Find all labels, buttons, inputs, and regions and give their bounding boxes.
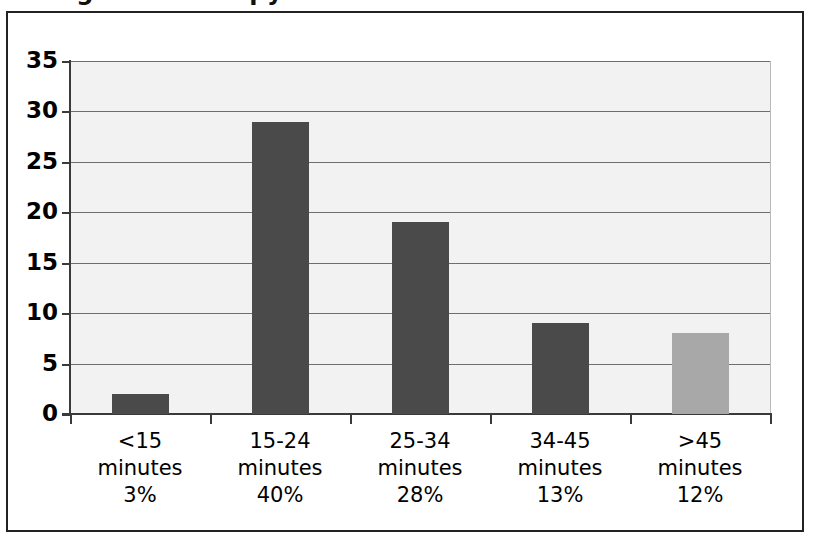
y-axis-tick bbox=[62, 364, 70, 366]
bar[interactable] bbox=[112, 394, 169, 414]
y-axis-tick-label: 30 bbox=[10, 99, 58, 122]
x-axis-tick bbox=[210, 415, 212, 424]
y-axis-tick-label: 35 bbox=[10, 49, 58, 72]
x-axis-category-label: >45minutes12% bbox=[630, 428, 770, 509]
y-axis-tick bbox=[62, 61, 70, 63]
gridline bbox=[70, 162, 770, 163]
x-axis-category-label: 15-24minutes40% bbox=[210, 428, 350, 509]
y-axis-tick bbox=[62, 263, 70, 265]
bar[interactable] bbox=[252, 122, 309, 414]
category-percent: 13% bbox=[490, 482, 630, 509]
x-axis-category-label: 25-34minutes28% bbox=[350, 428, 490, 509]
y-axis-line bbox=[69, 60, 71, 416]
y-axis-tick-label: 15 bbox=[10, 251, 58, 274]
y-axis-tick bbox=[62, 111, 70, 113]
x-axis-tick bbox=[350, 415, 352, 424]
x-axis-tick bbox=[490, 415, 492, 424]
category-percent: 28% bbox=[350, 482, 490, 509]
category-unit: minutes bbox=[350, 455, 490, 482]
y-axis-tick-label: 20 bbox=[10, 200, 58, 223]
gridline bbox=[70, 212, 770, 213]
y-axis-tick-label: 25 bbox=[10, 150, 58, 173]
x-axis-tick bbox=[630, 415, 632, 424]
bar[interactable] bbox=[392, 222, 449, 414]
chart-title-strip: Length of Therapy Sessions bbox=[0, 0, 813, 11]
category-unit: minutes bbox=[210, 455, 350, 482]
category-range: >45 bbox=[630, 428, 770, 455]
chart-figure-frame: 35302520151050 <15minutes3%15-24minutes4… bbox=[6, 11, 804, 532]
y-axis-tick-label: 0 bbox=[10, 402, 58, 425]
y-axis-tick bbox=[62, 212, 70, 214]
category-range: 34-45 bbox=[490, 428, 630, 455]
category-range: 25-34 bbox=[350, 428, 490, 455]
y-axis-tick-label: 10 bbox=[10, 301, 58, 324]
x-axis-category-label: <15minutes3% bbox=[70, 428, 210, 509]
y-axis-tick-label: 5 bbox=[10, 352, 58, 375]
gridline bbox=[70, 61, 770, 62]
category-range: <15 bbox=[70, 428, 210, 455]
category-unit: minutes bbox=[490, 455, 630, 482]
category-percent: 3% bbox=[70, 482, 210, 509]
y-axis-tick bbox=[62, 162, 70, 164]
y-axis-tick bbox=[62, 414, 70, 416]
category-unit: minutes bbox=[630, 455, 770, 482]
gridline bbox=[70, 111, 770, 112]
bar[interactable] bbox=[532, 323, 589, 414]
y-axis-tick bbox=[62, 313, 70, 315]
category-percent: 12% bbox=[630, 482, 770, 509]
category-unit: minutes bbox=[70, 455, 210, 482]
x-axis-tick bbox=[770, 415, 772, 424]
category-range: 15-24 bbox=[210, 428, 350, 455]
page-title: Length of Therapy Sessions bbox=[26, 0, 414, 6]
x-axis-tick bbox=[70, 415, 72, 424]
category-percent: 40% bbox=[210, 482, 350, 509]
bar-chart: 35302520151050 <15minutes3%15-24minutes4… bbox=[8, 13, 802, 530]
x-axis-category-label: 34-45minutes13% bbox=[490, 428, 630, 509]
bar[interactable] bbox=[672, 333, 729, 414]
